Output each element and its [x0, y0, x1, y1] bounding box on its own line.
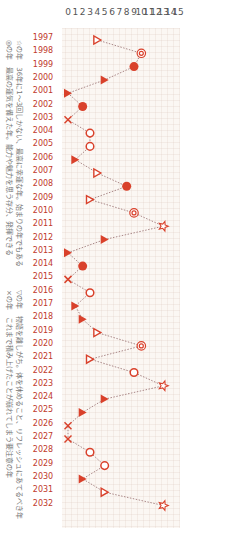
triangle-filled-marker-icon [101, 395, 109, 404]
x-tick-label: 2021 [33, 352, 53, 361]
star-marker-icon [159, 221, 168, 231]
y-tick-label: 6 [109, 7, 115, 17]
x-tick-label: 2002 [33, 100, 53, 109]
y-tick-label: 15 [172, 7, 183, 17]
star-marker-icon [159, 501, 168, 511]
line-chart: 0123456789101112131415199719981999200020… [0, 0, 243, 533]
dot-marker-icon [78, 102, 87, 111]
star-marker-icon [159, 381, 168, 391]
x-tick-label: 2032 [33, 499, 53, 508]
y-tick-label: 5 [102, 7, 108, 17]
x-tick-label: 2023 [33, 379, 53, 388]
circle-open-marker-icon [101, 462, 109, 470]
triangle-open-marker-icon [87, 196, 94, 204]
x-tick-label: 2004 [33, 126, 53, 135]
x-tick-label: 2014 [33, 259, 53, 268]
triangle-filled-marker-icon [101, 75, 109, 84]
x-tick-label: 2022 [33, 366, 53, 375]
x-tick-label: 2026 [33, 419, 53, 428]
triangle-open-marker-icon [94, 329, 101, 337]
circle-open-marker-icon [86, 143, 94, 151]
legend-caption-triangle: ▽の年 物語を離しがち。体を休めること、リフレッシュにあてるべき年 [15, 290, 25, 519]
x-tick-label: 2031 [33, 485, 53, 494]
x-tick-label: 2010 [33, 206, 53, 215]
x-tick-label: 1997 [33, 33, 53, 42]
chart-stage: 0123456789101112131415199719981999200020… [0, 0, 243, 533]
x-tick-label: 2018 [33, 312, 53, 321]
x-tick-label: 2025 [33, 405, 53, 414]
x-tick-label: 2020 [33, 339, 53, 348]
x-tick-label: 2001 [33, 86, 53, 95]
triangle-filled-marker-icon [71, 155, 79, 164]
circle-open-marker-icon [86, 449, 94, 457]
x-tick-label: 2016 [33, 286, 53, 295]
circle-open-marker-icon [130, 369, 138, 377]
dot-marker-icon [130, 62, 139, 71]
cross-marker-icon [65, 276, 72, 283]
legend-caption-star: ☆の年 36年に1～3回しかない、最高に幸運な年。始まりの年でもある [15, 40, 25, 267]
y-tick-label: 8 [124, 7, 130, 17]
y-tick-label: 3 [87, 7, 93, 17]
y-tick-label: 7 [116, 7, 122, 17]
triangle-open-marker-icon [94, 169, 101, 177]
x-tick-label: 2011 [33, 219, 53, 228]
x-tick-label: 1999 [33, 60, 53, 69]
x-tick-label: 2013 [33, 246, 53, 255]
x-tick-label: 2007 [33, 166, 53, 175]
triangle-open-marker-icon [94, 36, 101, 44]
dot-marker-icon [78, 262, 87, 271]
x-tick-label: 2003 [33, 113, 53, 122]
triangle-open-marker-icon [87, 355, 94, 363]
x-tick-label: 2017 [33, 299, 53, 308]
x-tick-label: 2019 [33, 326, 53, 335]
dot-marker-icon [122, 182, 131, 191]
x-tick-label: 2000 [33, 73, 53, 82]
x-tick-label: 2005 [33, 139, 53, 148]
double-circle-marker-icon [130, 209, 138, 217]
triangle-filled-marker-icon [79, 474, 87, 483]
x-tick-label: 2024 [33, 392, 53, 401]
x-tick-label: 2027 [33, 432, 53, 441]
x-tick-label: 2012 [33, 233, 53, 242]
x-tick-label: 2009 [33, 193, 53, 202]
y-tick-label: 4 [94, 7, 100, 17]
double-circle-marker-icon [137, 49, 145, 57]
triangle-filled-marker-icon [79, 408, 87, 417]
x-tick-label: 2029 [33, 459, 53, 468]
triangle-filled-marker-icon [101, 235, 109, 244]
x-tick-label: 2030 [33, 472, 53, 481]
x-tick-label: 2015 [33, 272, 53, 281]
circle-open-marker-icon [86, 129, 94, 137]
legend-caption-cross: ×の年 これまで積み上げたことが崩れてしまう要注意の年 [5, 290, 15, 478]
x-tick-label: 1998 [33, 46, 53, 55]
x-tick-label: 2028 [33, 445, 53, 454]
triangle-filled-marker-icon [64, 89, 72, 98]
legend-caption-double-circle: ◎の年 最高の運気を備えた年。能力や魅力を思う存分、発揮できる [5, 40, 15, 256]
triangle-open-marker-icon [101, 488, 108, 496]
y-tick-label: 2 [80, 7, 86, 17]
y-tick-label: 0 [65, 7, 71, 17]
cross-marker-icon [65, 116, 72, 123]
x-tick-label: 2008 [33, 179, 53, 188]
x-tick-label: 2006 [33, 153, 53, 162]
circle-open-marker-icon [86, 289, 94, 297]
y-tick-label: 1 [72, 7, 78, 17]
double-circle-marker-icon [137, 342, 145, 350]
triangle-filled-marker-icon [64, 248, 72, 257]
